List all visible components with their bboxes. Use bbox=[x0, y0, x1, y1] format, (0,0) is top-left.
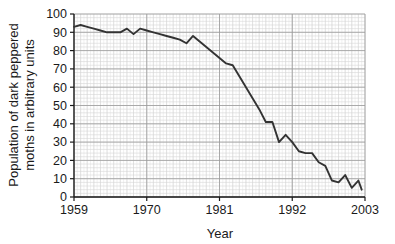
y-tick-label: 10 bbox=[53, 172, 67, 186]
y-axis-title-line2: moths in arbitrary units bbox=[22, 39, 37, 171]
x-tick-label: 2003 bbox=[351, 203, 379, 217]
y-tick-label: 30 bbox=[53, 135, 67, 149]
x-axis-title: Year bbox=[207, 226, 234, 241]
y-tick-label: 60 bbox=[53, 81, 67, 95]
y-axis-title-line1: Population of dark peppered bbox=[6, 23, 21, 186]
y-tick-label: 70 bbox=[53, 62, 67, 76]
y-tick-label: 20 bbox=[53, 154, 67, 168]
y-tick-label: 50 bbox=[53, 99, 67, 113]
x-tick-label: 1981 bbox=[206, 203, 234, 217]
chart-figure: 0102030405060708090100 19591970198119922… bbox=[0, 0, 395, 244]
y-tick-label: 100 bbox=[46, 7, 67, 21]
y-tick-label: 40 bbox=[53, 117, 67, 131]
line-chart: 0102030405060708090100 19591970198119922… bbox=[0, 0, 395, 244]
x-tick-label: 1970 bbox=[133, 203, 161, 217]
y-tick-label: 80 bbox=[53, 44, 67, 58]
x-tick-label: 1959 bbox=[60, 203, 88, 217]
x-tick-label: 1992 bbox=[278, 203, 306, 217]
y-tick-label: 90 bbox=[53, 26, 67, 40]
